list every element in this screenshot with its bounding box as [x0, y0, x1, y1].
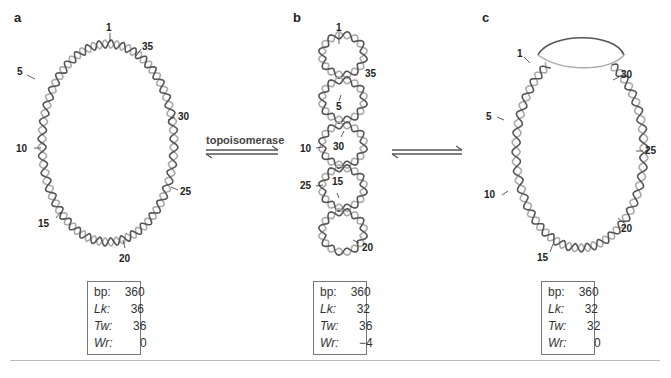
parameter-box-c: bp:360 Lk:32 Tw:32 Wr:0 — [541, 281, 595, 355]
param-key: Tw: — [320, 318, 338, 335]
param-value: 36 — [120, 301, 144, 318]
position-label: 5 — [486, 111, 492, 122]
panel-letter-b: b — [293, 10, 301, 25]
position-label: 5 — [336, 101, 342, 112]
param-key: Tw: — [94, 318, 112, 335]
topoisomerase-label: topoisomerase — [206, 134, 284, 146]
position-label: 15 — [332, 176, 343, 187]
position-label: 25 — [300, 180, 311, 191]
position-label: 1 — [106, 22, 112, 33]
param-value: 0 — [577, 335, 601, 352]
param-value: 32 — [574, 301, 598, 318]
bottom-divider — [10, 360, 660, 361]
param-key: bp: — [94, 284, 111, 301]
relaxed-circular-dna-a — [38, 40, 178, 246]
equilibrium-arrows-icon — [206, 146, 278, 158]
param-value: 0 — [123, 335, 147, 352]
position-label: 30 — [178, 111, 189, 122]
param-value: 360 — [575, 284, 599, 301]
parameter-box-a: bp:360 Lk:36 Tw:36 Wr:0 — [87, 281, 141, 355]
param-key: Lk: — [94, 301, 110, 318]
param-value: 36 — [348, 318, 372, 335]
panel-letter-c: c — [482, 10, 489, 25]
position-label: 15 — [38, 218, 49, 229]
param-value: 32 — [576, 318, 600, 335]
position-label: 10 — [16, 143, 27, 154]
param-value: 360 — [121, 284, 145, 301]
param-value: −4 — [349, 335, 373, 352]
param-value: 32 — [346, 301, 370, 318]
position-label: 15 — [537, 252, 548, 263]
parameter-box-b: bp:360 Lk:32 Tw:36 Wr:−4 — [313, 281, 367, 355]
position-label: 1 — [336, 22, 342, 33]
param-key: bp: — [320, 284, 337, 301]
position-label: 25 — [645, 145, 656, 156]
position-label: 20 — [621, 223, 632, 234]
param-key: bp: — [548, 284, 565, 301]
panel-letter-a: a — [14, 10, 21, 25]
position-label: 1 — [517, 48, 523, 59]
param-key: Wr: — [548, 335, 567, 352]
param-key: Lk: — [548, 301, 564, 318]
position-label: 10 — [300, 143, 311, 154]
param-value: 36 — [122, 318, 146, 335]
position-label: 5 — [17, 66, 23, 77]
param-key: Lk: — [320, 301, 336, 318]
param-value: 360 — [347, 284, 371, 301]
position-label: 10 — [484, 189, 495, 200]
position-label: 20 — [362, 242, 373, 253]
param-key: Wr: — [94, 335, 113, 352]
position-label: 30 — [621, 69, 632, 80]
melted-bubble-c — [538, 38, 624, 68]
position-label: 35 — [142, 41, 153, 52]
position-label: 30 — [333, 141, 344, 152]
position-label: 20 — [119, 253, 130, 264]
param-key: Tw: — [548, 318, 566, 335]
param-key: Wr: — [320, 335, 339, 352]
equilibrium-arrows-icon — [392, 146, 462, 158]
position-label: 35 — [365, 68, 376, 79]
position-label: 25 — [180, 186, 191, 197]
